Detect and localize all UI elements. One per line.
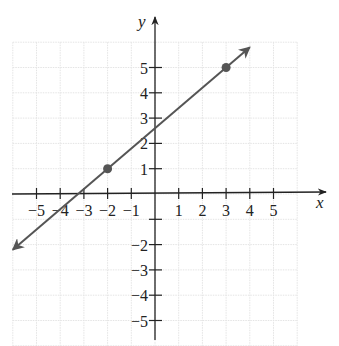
y-axis-label: y	[136, 12, 146, 31]
x-tick-label: 1	[175, 202, 183, 219]
x-tick-label: −2	[99, 202, 116, 219]
coordinate-plane: −5−4−3−2−11234554321−2−3−4−5 x y	[0, 0, 339, 346]
x-tick-label: −3	[75, 202, 92, 219]
y-tick-label: −2	[131, 237, 148, 254]
x-axis-label: x	[315, 193, 324, 212]
y-tick-label: 3	[140, 110, 148, 127]
y-tick-label: 4	[140, 85, 148, 102]
axes	[12, 17, 326, 340]
x-tick-label: 3	[222, 202, 230, 219]
data-point	[103, 164, 112, 173]
y-tick-label: 1	[140, 161, 148, 178]
y-tick-label: 5	[140, 60, 148, 77]
x-tick-label: 4	[246, 202, 254, 219]
x-tick-label: −1	[123, 202, 140, 219]
y-tick-label: −3	[131, 262, 148, 279]
x-tick-label: 2	[198, 202, 206, 219]
y-tick-label: −5	[131, 313, 148, 330]
x-tick-label: 5	[270, 202, 278, 219]
data-point	[222, 63, 231, 72]
x-tick-label: −5	[28, 202, 45, 219]
y-tick-label: −4	[131, 287, 148, 304]
